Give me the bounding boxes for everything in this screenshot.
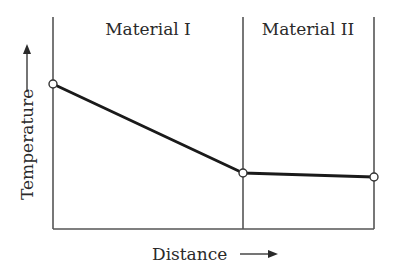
y-arrow-head-icon	[23, 44, 31, 54]
x-axis-title: Distance	[152, 244, 278, 264]
temperature-distance-diagram: Material I Material II Distance Temperat…	[0, 0, 396, 272]
point-marker-start	[49, 80, 57, 88]
x-arrow-head-icon	[268, 250, 278, 258]
material-1-label: Material I	[105, 19, 191, 39]
data-markers	[49, 80, 378, 181]
x-axis-label: Distance	[152, 244, 227, 264]
y-axis-title: Temperature	[17, 44, 37, 200]
temperature-profile-line	[53, 84, 374, 177]
axes	[53, 17, 374, 229]
y-axis-label: Temperature	[17, 89, 37, 200]
point-marker-interface	[239, 169, 247, 177]
material-2-label: Material II	[262, 19, 354, 39]
point-marker-end	[370, 173, 378, 181]
